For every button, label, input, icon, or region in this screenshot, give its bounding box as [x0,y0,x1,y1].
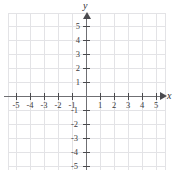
x-axis-label: x [167,91,171,101]
x-tick-mark [128,93,129,100]
x-tick-mark [44,93,45,100]
x-tick-mark [156,93,157,100]
gridline-vertical [142,13,143,170]
gridline-vertical [128,13,129,170]
y-axis-label: y [83,1,87,11]
y-tick-mark [83,166,90,167]
y-tick-label: 5 [64,22,80,31]
x-tick-mark [30,93,31,100]
gridline-vertical [44,13,45,170]
y-tick-label: 3 [64,50,80,59]
y-tick-mark [83,110,90,111]
gridline-vertical [58,13,59,170]
x-tick-mark [142,93,143,100]
y-tick-label: 1 [64,78,80,87]
y-tick-label: -1 [62,106,78,115]
x-tick-mark [16,93,17,100]
y-tick-label: -5 [62,162,78,171]
x-axis-line [4,96,162,97]
y-tick-mark [83,138,90,139]
coordinate-plane-figure: -5 -4 -3 -2 -1 1 2 3 4 5 5 4 3 2 1 -1 -2… [0,0,174,178]
y-tick-label: 4 [64,36,80,45]
gridline-vertical [100,13,101,170]
y-axis-arrow-icon [83,12,91,19]
y-tick-mark [83,40,90,41]
gridline-vertical [114,13,115,170]
gridline-vertical [30,13,31,170]
gridline-vertical [156,13,157,170]
x-tick-mark [72,93,73,100]
grid-area [8,13,166,170]
x-tick-mark [58,93,59,100]
x-axis-arrow-icon [160,92,167,100]
y-tick-mark [83,152,90,153]
y-tick-mark [83,82,90,83]
y-tick-label: -3 [62,134,78,143]
gridline-vertical [16,13,17,170]
y-tick-mark [83,124,90,125]
y-tick-label: -4 [62,148,78,157]
x-tick-mark [114,93,115,100]
y-tick-mark [83,26,90,27]
y-tick-label: -2 [62,120,78,129]
y-tick-mark [83,54,90,55]
y-tick-mark [83,68,90,69]
gridline-vertical [8,13,9,170]
x-tick-mark [100,93,101,100]
x-tick-label: 5 [148,101,164,110]
y-tick-label: 2 [64,64,80,73]
